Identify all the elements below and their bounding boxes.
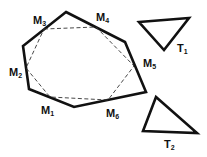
triangle-label-t2: T2 bbox=[164, 138, 175, 151]
midpoint-label-m6: M6 bbox=[106, 107, 119, 120]
triangle-t2 bbox=[143, 97, 197, 133]
midpoint-label-m3: M3 bbox=[33, 14, 46, 27]
midpoint-label-m2: M2 bbox=[9, 66, 22, 79]
midpoint-label-m4: M4 bbox=[96, 11, 109, 24]
midpoint-label-m1: M1 bbox=[41, 104, 54, 117]
hexagon-midpoint-diagram: M1M2M3M4M5M6T1T2 bbox=[0, 0, 207, 157]
triangle-label-t1: T1 bbox=[177, 42, 188, 55]
midpoint-label-m5: M5 bbox=[143, 57, 156, 70]
